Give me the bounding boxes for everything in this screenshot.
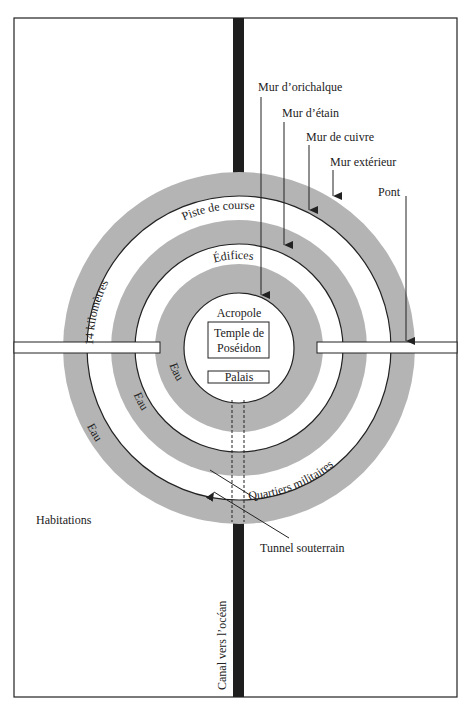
canal-north — [233, 18, 244, 173]
label-tunnel: Tunnel souterrain — [260, 541, 345, 555]
label-mur-orichalque: Mur d’orichalque — [258, 80, 342, 94]
label-habitations: Habitations — [36, 513, 92, 527]
label-pont: Pont — [378, 185, 401, 199]
label-temple-1: Temple de — [214, 326, 264, 340]
atlantis-diagram: Mur d’orichalque Mur d’étain Mur de cuiv… — [0, 0, 470, 708]
label-acropole: Acropole — [217, 306, 262, 320]
label-mur-cuivre: Mur de cuivre — [306, 130, 374, 144]
label-canal: Canal vers l’océan — [215, 601, 229, 690]
bridge-east — [317, 342, 457, 353]
label-mur-exterieur: Mur extérieur — [330, 155, 396, 169]
label-temple-2: Poséidon — [217, 341, 261, 355]
canal-south — [233, 522, 244, 697]
label-mur-etain: Mur d’étain — [282, 106, 339, 120]
label-palais: Palais — [225, 370, 254, 384]
